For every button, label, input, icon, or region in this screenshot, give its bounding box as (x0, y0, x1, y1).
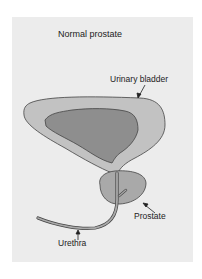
label-urethra: Urethra (58, 238, 86, 248)
prostate-anatomy-illustration (0, 0, 202, 279)
prostate-gland (100, 171, 146, 204)
label-prostate: Prostate (134, 211, 166, 221)
label-urinary-bladder: Urinary bladder (110, 74, 168, 84)
diagram-title: Normal prostate (58, 29, 122, 39)
